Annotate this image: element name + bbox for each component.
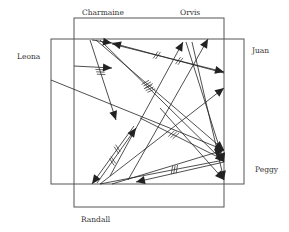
tick-mark-icon xyxy=(170,132,176,138)
arrowhead-icon xyxy=(109,110,117,120)
edge xyxy=(100,88,224,184)
label-charmaine: Charmaine xyxy=(82,8,124,17)
arrowhead-icon xyxy=(92,174,101,184)
edge xyxy=(74,64,112,72)
arrowhead-icon xyxy=(214,88,224,97)
label-leona: Leona xyxy=(17,52,40,61)
edge xyxy=(110,42,183,176)
edge xyxy=(92,126,134,184)
relationship-edges xyxy=(51,38,226,184)
arrowhead-icon xyxy=(175,42,183,52)
arrowhead-icon xyxy=(200,39,208,49)
arrowhead-icon xyxy=(136,176,146,184)
group-boxes xyxy=(51,18,244,207)
label-juan: Juan xyxy=(252,46,269,55)
edge xyxy=(100,160,224,184)
label-randall: Randall xyxy=(81,215,110,224)
tick-mark-icon xyxy=(168,131,174,137)
edge xyxy=(96,40,224,150)
group-box-outer xyxy=(51,39,244,184)
edge xyxy=(90,40,117,120)
tick-mark-icon xyxy=(173,133,179,139)
sociogram-diagram xyxy=(0,0,289,232)
label-peggy: Peggy xyxy=(255,165,278,174)
label-orvis: Orvis xyxy=(180,8,200,17)
edge xyxy=(51,80,224,150)
arrowhead-icon xyxy=(103,64,112,72)
edge xyxy=(97,128,136,183)
